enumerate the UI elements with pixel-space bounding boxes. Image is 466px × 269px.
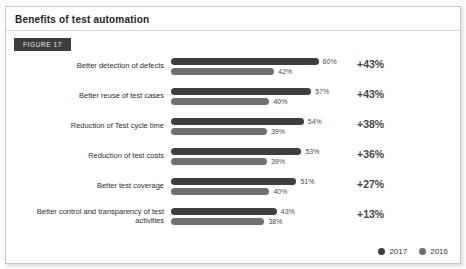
bar-value-2016: 38%	[268, 218, 282, 225]
bar-value-2017: 57%	[315, 88, 329, 95]
chart-row: Better test coverage 51% 40% +27%	[14, 178, 460, 195]
bar-value-2017: 60%	[323, 58, 337, 65]
bar-2017	[171, 88, 311, 95]
bar-value-2016: 40%	[273, 188, 287, 195]
chart-row: Reduction of Test cycle time 54% 39% +38…	[14, 118, 460, 135]
bar-2016	[171, 128, 267, 135]
bar-group: 51% 40%	[171, 178, 357, 195]
figure-badge: FIGURE 17	[14, 38, 71, 51]
bar-value-2016: 39%	[271, 158, 285, 165]
chart-row: Reduction of test costs 53% 39% +36%	[14, 148, 460, 165]
category-label: Better test coverage	[14, 182, 171, 191]
legend-item-2016: 2016	[419, 247, 448, 256]
bar-2017	[171, 118, 304, 125]
category-label: Reduction of test costs	[14, 152, 171, 161]
change-label: +13%	[357, 208, 412, 220]
bar-group: 43% 38%	[171, 208, 357, 225]
category-label: Better control and transparency of test …	[14, 208, 171, 225]
bar-2017	[171, 208, 277, 215]
chart-row: Better control and transparency of test …	[14, 208, 460, 225]
bar-group: 53% 39%	[171, 148, 357, 165]
bar-value-2017: 43%	[281, 208, 295, 215]
page-title: Benefits of test automation	[6, 7, 460, 30]
title-divider	[6, 30, 460, 31]
bar-value-2017: 54%	[308, 118, 322, 125]
bar-2016	[171, 68, 274, 75]
change-label: +36%	[357, 148, 412, 160]
bar-group: 57% 40%	[171, 88, 357, 105]
bar-value-2017: 53%	[305, 148, 319, 155]
bar-value-2017: 51%	[300, 178, 314, 185]
bar-2017	[171, 178, 296, 185]
category-label: Reduction of Test cycle time	[14, 122, 171, 131]
bar-2016	[171, 158, 267, 165]
change-label: +43%	[357, 58, 412, 70]
legend-label-2016: 2016	[430, 247, 448, 256]
bar-2016	[171, 98, 269, 105]
category-label: Better detection of defects	[14, 62, 171, 71]
legend-dot-2017-icon	[378, 248, 385, 255]
chart-row: Better reuse of test cases 57% 40% +43%	[14, 88, 460, 105]
bar-2016	[171, 188, 269, 195]
bar-value-2016: 39%	[271, 128, 285, 135]
category-label: Better reuse of test cases	[14, 92, 171, 101]
legend-dot-2016-icon	[419, 248, 426, 255]
bar-2016	[171, 218, 264, 225]
bar-group: 54% 39%	[171, 118, 357, 135]
chart-row: Better detection of defects 60% 42% +43%	[14, 58, 460, 75]
bar-chart: Better detection of defects 60% 42% +43%…	[6, 58, 460, 225]
change-label: +38%	[357, 118, 412, 130]
bar-value-2016: 40%	[273, 98, 287, 105]
legend-item-2017: 2017	[378, 247, 407, 256]
change-label: +43%	[357, 88, 412, 100]
chart-legend: 2017 2016	[378, 247, 448, 256]
report-card: Benefits of test automation FIGURE 17 Be…	[5, 6, 461, 264]
legend-label-2017: 2017	[389, 247, 407, 256]
bar-2017	[171, 58, 319, 65]
bar-value-2016: 42%	[278, 68, 292, 75]
change-label: +27%	[357, 178, 412, 190]
bar-group: 60% 42%	[171, 58, 357, 75]
bar-2017	[171, 148, 301, 155]
